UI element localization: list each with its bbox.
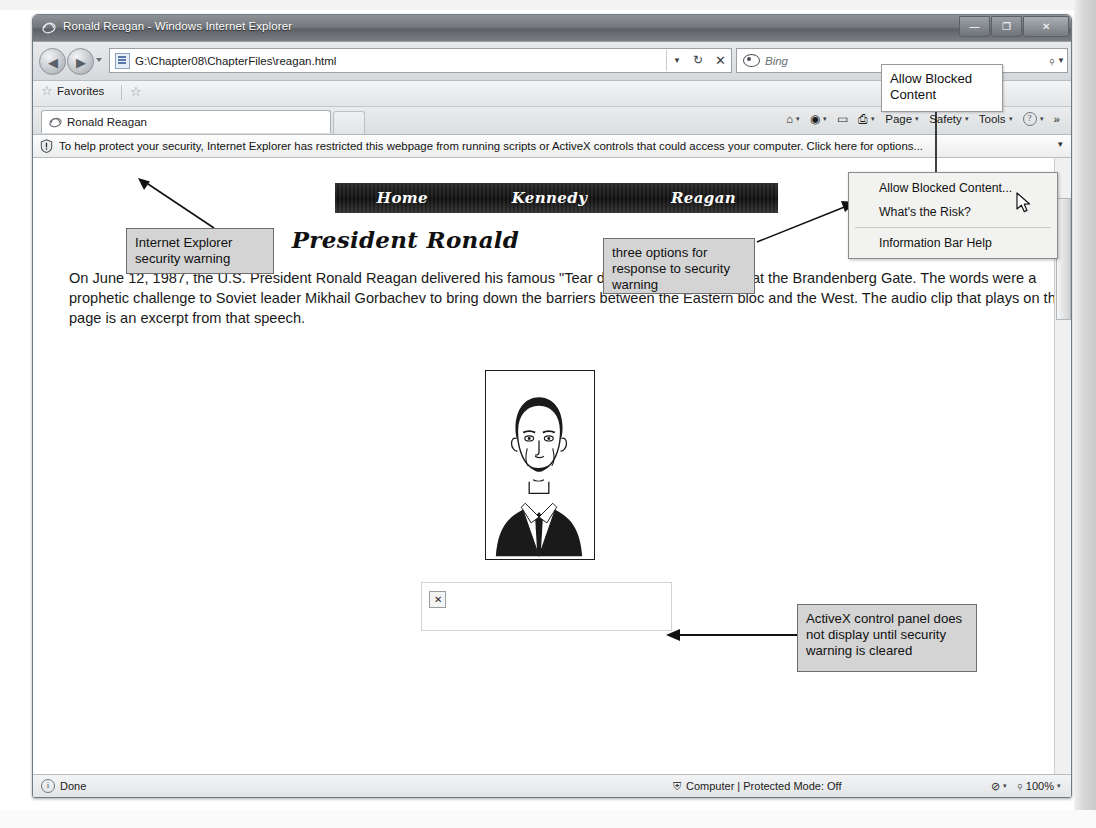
recent-pages-dropdown-icon[interactable] <box>96 58 102 62</box>
tab-ronald-reagan[interactable]: Ronald Reagan <box>41 110 331 133</box>
chevron-down-icon: ▾ <box>1040 115 1044 123</box>
chevron-down-icon: ▾ <box>1009 115 1013 123</box>
address-bar-controls: ▼ ↻ ✕ <box>666 49 731 72</box>
mouse-cursor-icon <box>1016 192 1034 216</box>
command-bar: ⌂ ▾ ◉ ▾ ▭ ⎙ ▾ Page ▾ <box>781 110 1065 128</box>
scan-edge-right <box>1074 0 1096 828</box>
privacy-icon: ⊘ <box>991 780 1000 793</box>
home-icon: ⌂ <box>786 113 793 125</box>
callout-text: Internet Explorer security warning <box>135 235 233 266</box>
zoom-control[interactable]: ⌕ 100% ▾ <box>1016 779 1061 793</box>
favorites-button[interactable]: ☆ Favorites <box>41 84 104 97</box>
status-bar: i Done ⛨ Computer | Protected Mode: Off … <box>33 774 1071 797</box>
privacy-report-button[interactable]: ⊘ ▾ <box>991 780 1007 793</box>
mail-icon: ▭ <box>837 112 848 126</box>
address-bar[interactable]: G:\Chapter08\ChapterFiles\reagan.html ▼ … <box>109 48 732 73</box>
scan-edge-top <box>0 0 1096 10</box>
reagan-portrait-image <box>485 370 595 560</box>
site-navigation-banner: Home Kennedy Reagan <box>335 183 778 213</box>
callout-three-options: three options for response to security w… <box>603 238 755 294</box>
new-tab-button[interactable] <box>333 111 365 134</box>
window-controls: — ❐ ✕ <box>959 16 1069 37</box>
back-button[interactable]: ◀ <box>39 48 66 75</box>
callout-allow-blocked-content: Allow Blocked Content <box>881 64 1003 112</box>
page-menu-label: Page <box>885 113 912 125</box>
screenshot-root: Ronald Reagan - Windows Internet Explore… <box>0 0 1096 828</box>
chevron-down-icon: ▾ <box>1057 782 1061 790</box>
feeds-button[interactable]: ◉ ▾ <box>805 110 832 128</box>
computer-icon: ⛨ <box>673 780 681 793</box>
close-button[interactable]: ✕ <box>1023 16 1069 37</box>
broken-image-icon: ✕ <box>429 591 446 608</box>
maximize-icon: ❐ <box>1002 21 1011 32</box>
home-button[interactable]: ⌂ ▾ <box>781 111 805 127</box>
favorites-label: Favorites <box>57 85 104 97</box>
information-bar[interactable]: To help protect your security, Internet … <box>33 135 1071 158</box>
scan-edge-bottom <box>0 810 1096 828</box>
close-icon: ✕ <box>1042 21 1050 32</box>
maximize-button[interactable]: ❐ <box>991 16 1022 37</box>
command-bar-overflow-button[interactable]: » <box>1049 111 1065 127</box>
tools-menu-label: Tools <box>979 113 1006 125</box>
forward-button[interactable]: ▶ <box>67 48 94 75</box>
shield-warning-icon <box>40 139 53 153</box>
chevron-down-icon: ▾ <box>823 115 827 123</box>
zoom-level: 100% <box>1026 780 1054 792</box>
chevron-down-icon: ▾ <box>965 115 969 123</box>
stop-icon[interactable]: ✕ <box>709 50 731 71</box>
overflow-chevron-icon: » <box>1054 113 1060 125</box>
window-title: Ronald Reagan - Windows Internet Explore… <box>63 20 292 32</box>
star-icon: ☆ <box>41 84 53 97</box>
bing-icon <box>743 54 760 67</box>
security-zone-text: Computer | Protected Mode: Off <box>686 780 842 792</box>
help-icon: ? <box>1023 112 1037 126</box>
callout-ie-security-warning: Internet Explorer security warning <box>126 228 274 274</box>
minimize-icon: — <box>970 21 980 32</box>
nav-link-home[interactable]: Home <box>377 189 428 207</box>
print-button[interactable]: ⎙ ▾ <box>853 111 880 128</box>
page-menu-button[interactable]: Page ▾ <box>880 111 924 127</box>
search-controls: ⌕ ▼ <box>1048 49 1065 72</box>
menu-item-information-bar-help[interactable]: Information Bar Help <box>849 231 1057 255</box>
favorites-divider <box>121 85 122 100</box>
address-dropdown-icon[interactable]: ▼ <box>666 50 687 71</box>
security-zone[interactable]: ⛨ Computer | Protected Mode: Off <box>673 780 842 793</box>
activex-control-panel: ✕ <box>421 582 672 631</box>
mail-button[interactable]: ▭ <box>832 110 853 128</box>
browser-window: Ronald Reagan - Windows Internet Explore… <box>32 14 1072 798</box>
minimize-button[interactable]: — <box>959 16 990 37</box>
scrollbar-thumb[interactable] <box>1056 198 1071 320</box>
printer-icon: ⎙ <box>858 113 868 126</box>
chevron-down-icon: ▾ <box>871 115 875 123</box>
leader-line-three-options <box>755 196 857 246</box>
tools-menu-button[interactable]: Tools ▾ <box>974 111 1018 127</box>
zoom-icon: ⌕ <box>1012 779 1027 794</box>
callout-activex-panel: ActiveX control panel does not display u… <box>797 604 977 672</box>
status-bar-right: ⊘ ▾ ⌕ 100% ▾ <box>991 779 1061 793</box>
internet-explorer-icon <box>42 21 56 35</box>
nav-link-reagan[interactable]: Reagan <box>671 189 736 207</box>
leader-line-activex-panel <box>664 626 800 646</box>
add-to-favorites-icon[interactable]: ☆ <box>130 84 142 99</box>
tab-favicon-icon <box>49 116 62 129</box>
page-paragraph: On June 12, 1987, the U.S. President Ron… <box>69 268 1069 328</box>
chevron-down-icon: ▾ <box>915 115 919 123</box>
information-bar-chevron-icon[interactable]: ▾ <box>1058 139 1063 149</box>
page-icon <box>115 53 130 69</box>
chevron-down-icon: ▾ <box>1003 782 1007 790</box>
forward-arrow-icon: ▶ <box>76 54 86 69</box>
search-input[interactable]: Bing <box>765 55 788 67</box>
callout-text: three options for response to security w… <box>612 245 730 292</box>
leader-line-ie-security-warning <box>136 178 222 234</box>
refresh-icon[interactable]: ↻ <box>687 50 709 71</box>
status-text: Done <box>60 780 86 792</box>
help-menu-button[interactable]: ? ▾ <box>1018 110 1049 128</box>
callout-text: ActiveX control panel does not display u… <box>806 611 962 658</box>
chevron-down-icon: ▾ <box>796 115 800 123</box>
nav-link-kennedy[interactable]: Kennedy <box>512 189 588 207</box>
information-bar-text: To help protect your security, Internet … <box>59 140 923 152</box>
status-message: i Done <box>41 779 86 793</box>
tab-title: Ronald Reagan <box>67 116 147 128</box>
info-icon: i <box>41 779 55 793</box>
address-input[interactable]: G:\Chapter08\ChapterFiles\reagan.html <box>135 55 336 67</box>
